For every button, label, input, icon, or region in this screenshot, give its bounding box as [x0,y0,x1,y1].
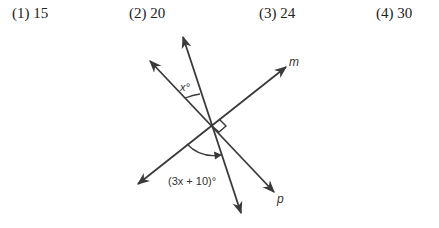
angle-x-label: x° [179,81,191,93]
angle-3x-label: (3x + 10)° [168,175,216,187]
geometry-figure: m p x° (3x + 10)° [0,0,439,228]
angle-x-arc [185,94,200,98]
line-p-label: p [276,192,284,206]
angle-3x-arrowhead [214,152,221,159]
line-m-label: m [289,55,299,69]
